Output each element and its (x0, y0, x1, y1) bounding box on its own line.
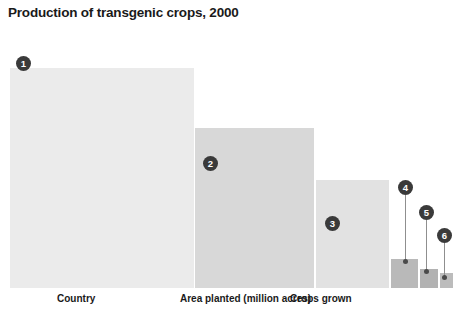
rank-badge-2: 2 (203, 156, 218, 171)
bar-rank-2 (194, 127, 315, 288)
stem-rank-6 (444, 243, 445, 278)
bar-rank-5 (419, 268, 439, 288)
stem-rank-4 (405, 195, 406, 262)
stem-dot-rank-6 (442, 275, 447, 280)
stem-dot-rank-4 (403, 259, 408, 264)
bar-rank-3 (315, 179, 390, 288)
rank-badge-4: 4 (398, 180, 413, 195)
axis-label-2: Crops grown (290, 293, 352, 304)
bar-rank-1 (9, 67, 195, 288)
stem-dot-rank-5 (424, 269, 429, 274)
rank-badge-6: 6 (437, 228, 452, 243)
rank-badge-3: 3 (325, 216, 340, 231)
chart-figure: Production of transgenic crops, 2000 Cou… (0, 0, 454, 313)
stem-rank-5 (426, 220, 427, 272)
page-title: Production of transgenic crops, 2000 (8, 5, 239, 20)
bar-rank-6 (439, 272, 454, 288)
rank-badge-1: 1 (16, 56, 31, 71)
axis-label-0: Country (57, 293, 95, 304)
axis-label-row: CountryArea planted (million acres)Crops… (0, 288, 454, 313)
rank-badge-5: 5 (419, 205, 434, 220)
plot-area (0, 28, 454, 288)
